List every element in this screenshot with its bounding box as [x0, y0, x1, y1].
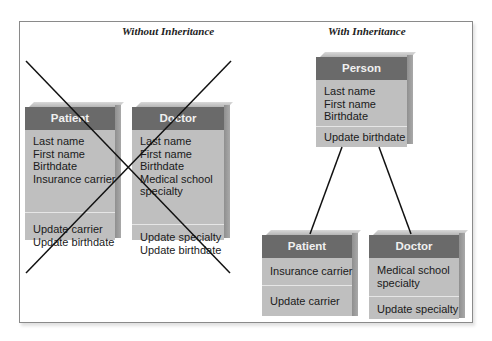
inheritance-line-patient — [310, 147, 342, 234]
inheritance-line-doctor — [379, 147, 411, 234]
connector-lines — [0, 0, 492, 341]
